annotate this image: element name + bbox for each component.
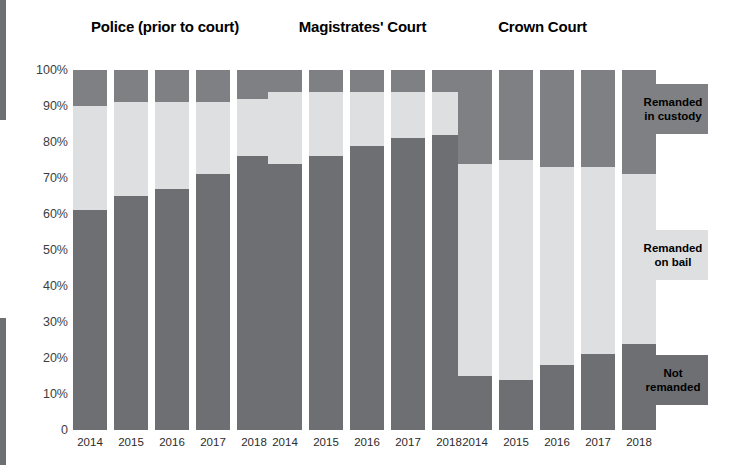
y-axis-tick-80: 80%: [43, 135, 68, 149]
y-axis-tick-30: 30%: [43, 315, 68, 329]
bar-segment-remanded-on-bail: [309, 92, 343, 157]
bar-segment-remanded-on-bail: [237, 99, 271, 157]
y-axis-tick-60: 60%: [43, 207, 68, 221]
stacked-bar-chart: 100%90%80%70%60%50%40%30%20%10%0 Police …: [0, 0, 740, 465]
bar-1-2014: [268, 70, 302, 430]
y-axis-tick-100: 100%: [36, 63, 68, 77]
legend-item-remanded-in-custody: Remanded in custody: [638, 84, 708, 134]
x-axis-label-1-2014: 2014: [265, 436, 305, 448]
legend-bail-line1: Remanded: [644, 242, 703, 254]
y-axis-tick-50: 50%: [43, 243, 68, 257]
bar-segment-not-remanded: [499, 380, 533, 430]
y-axis-tick-10: 10%: [43, 387, 68, 401]
legend-not-line2: remanded: [646, 381, 701, 393]
bar-segment-remanded-on-bail: [458, 164, 492, 376]
bar-segment-not-remanded: [540, 365, 574, 430]
bar-segment-not-remanded: [581, 354, 615, 430]
bar-segment-remanded-in-custody: [391, 70, 425, 92]
x-axis-label-2-2014: 2014: [455, 436, 495, 448]
bar-segment-remanded-on-bail: [268, 92, 302, 164]
y-axis-tick-40: 40%: [43, 279, 68, 293]
legend-custody-line1: Remanded: [644, 96, 703, 108]
legend-not-line1: Not: [663, 367, 682, 379]
bar-segment-not-remanded: [268, 164, 302, 430]
bar-segment-not-remanded: [114, 196, 148, 430]
bar-0-2016: [155, 70, 189, 430]
bar-segment-remanded-on-bail: [73, 106, 107, 210]
left-edge-strip-lower: [0, 318, 6, 465]
bar-segment-remanded-on-bail: [391, 92, 425, 139]
y-axis-tick-90: 90%: [43, 99, 68, 113]
bar-1-2017: [391, 70, 425, 430]
bar-segment-remanded-on-bail: [499, 160, 533, 380]
group-title-crown: Crown Court: [455, 18, 630, 35]
bar-segment-not-remanded: [196, 174, 230, 430]
group-title-magistrates: Magistrates' Court: [265, 18, 460, 35]
bar-segment-remanded-in-custody: [114, 70, 148, 102]
bar-segment-remanded-in-custody: [499, 70, 533, 160]
x-axis-label-1-2017: 2017: [388, 436, 428, 448]
y-axis-tick-0: 0: [61, 423, 68, 437]
x-axis-label-0-2014: 2014: [70, 436, 110, 448]
bar-0-2014: [73, 70, 107, 430]
bar-segment-not-remanded: [350, 146, 384, 430]
bar-segment-remanded-in-custody: [155, 70, 189, 102]
left-edge-strip: [0, 0, 6, 120]
bar-segment-not-remanded: [237, 156, 271, 430]
bar-segment-remanded-on-bail: [350, 92, 384, 146]
x-axis-label-1-2015: 2015: [306, 436, 346, 448]
bar-segment-not-remanded: [458, 376, 492, 430]
y-axis-tick-20: 20%: [43, 351, 68, 365]
x-axis-label-2-2016: 2016: [537, 436, 577, 448]
x-axis-label-2-2015: 2015: [496, 436, 536, 448]
x-axis-label-0-2016: 2016: [152, 436, 192, 448]
bar-segment-not-remanded: [155, 189, 189, 430]
bar-segment-remanded-in-custody: [458, 70, 492, 164]
legend-item-not-remanded: Not remanded: [638, 355, 708, 405]
bar-segment-remanded-in-custody: [196, 70, 230, 102]
bar-0-2018: [237, 70, 271, 430]
bar-1-2016: [350, 70, 384, 430]
bar-2-2017: [581, 70, 615, 430]
bar-0-2017: [196, 70, 230, 430]
bar-segment-remanded-in-custody: [73, 70, 107, 106]
bar-segment-not-remanded: [309, 156, 343, 430]
bar-segment-remanded-in-custody: [540, 70, 574, 167]
x-axis-label-0-2015: 2015: [111, 436, 151, 448]
bar-segment-remanded-on-bail: [114, 102, 148, 196]
x-axis-label-1-2016: 2016: [347, 436, 387, 448]
x-axis-label-2-2018: 2018: [619, 436, 659, 448]
bar-segment-remanded-in-custody: [268, 70, 302, 92]
group-title-police: Police (prior to court): [70, 18, 260, 35]
legend-bail-line2: on bail: [654, 256, 691, 268]
bar-segment-remanded-in-custody: [581, 70, 615, 167]
bar-segment-remanded-in-custody: [237, 70, 271, 99]
bar-0-2015: [114, 70, 148, 430]
bar-2-2015: [499, 70, 533, 430]
bar-segment-remanded-on-bail: [196, 102, 230, 174]
bar-segment-remanded-in-custody: [309, 70, 343, 92]
legend-item-remanded-on-bail: Remanded on bail: [638, 230, 708, 280]
bar-segment-remanded-in-custody: [350, 70, 384, 92]
y-axis-tick-70: 70%: [43, 171, 68, 185]
bar-2-2016: [540, 70, 574, 430]
bar-segment-remanded-on-bail: [581, 167, 615, 354]
bar-segment-not-remanded: [391, 138, 425, 430]
y-axis: 100%90%80%70%60%50%40%30%20%10%0: [18, 0, 68, 465]
bar-segment-remanded-on-bail: [540, 167, 574, 365]
bar-segment-remanded-on-bail: [155, 102, 189, 188]
x-axis-label-2-2017: 2017: [578, 436, 618, 448]
x-axis-label-0-2017: 2017: [193, 436, 233, 448]
bar-segment-not-remanded: [73, 210, 107, 430]
bar-1-2015: [309, 70, 343, 430]
bar-2-2014: [458, 70, 492, 430]
legend-custody-line2: in custody: [644, 110, 702, 122]
